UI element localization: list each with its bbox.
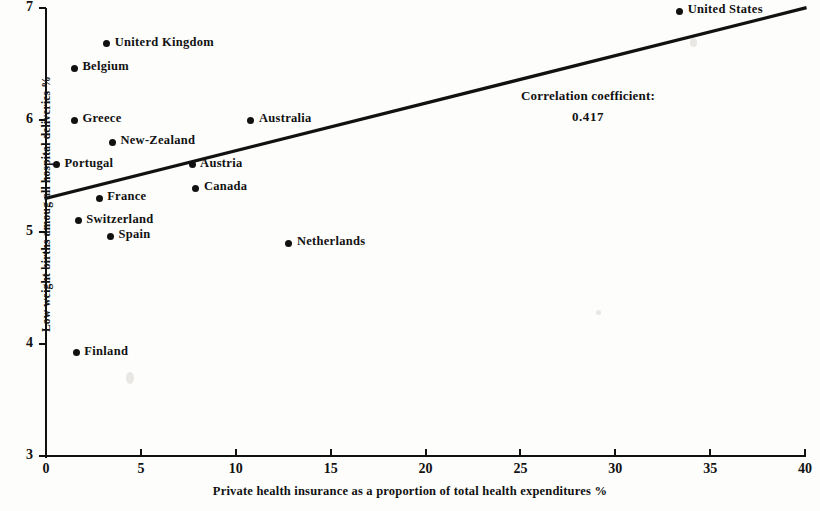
x-tick-label: 5 — [126, 461, 156, 477]
x-tick — [425, 449, 427, 456]
x-tick-label: 35 — [695, 461, 725, 477]
x-tick — [330, 449, 332, 456]
data-point-label: Australia — [259, 111, 312, 126]
data-point[interactable] — [192, 185, 199, 192]
data-point-label: Austria — [200, 156, 242, 171]
data-point-label: Uniterd Kingdom — [115, 35, 214, 50]
data-point[interactable] — [189, 161, 196, 168]
data-point-label: Greece — [82, 111, 121, 126]
scatter-chart-figure: 34567 0510152025303540 Low weight births… — [0, 0, 820, 511]
y-tick — [39, 7, 46, 9]
data-point-label: Belgium — [82, 59, 129, 74]
x-tick — [235, 449, 237, 456]
data-point[interactable] — [676, 8, 683, 15]
data-point[interactable] — [96, 195, 103, 202]
y-axis-title: Low weight births amoug all hospital del… — [40, 74, 52, 334]
data-point-label: Spain — [119, 227, 151, 242]
trend-line — [0, 0, 820, 511]
x-tick — [45, 449, 47, 456]
y-tick-label: 5 — [13, 223, 33, 239]
data-point[interactable] — [107, 233, 114, 240]
y-tick-label: 7 — [13, 0, 33, 15]
x-tick-label: 40 — [790, 461, 820, 477]
x-tick-label: 30 — [600, 461, 630, 477]
y-tick-label: 4 — [13, 335, 33, 351]
data-point[interactable] — [247, 117, 254, 124]
data-point-label: Finland — [84, 344, 128, 359]
data-point[interactable] — [71, 117, 78, 124]
data-point-label: Canada — [204, 179, 247, 194]
data-point[interactable] — [103, 40, 110, 47]
paper-speckle — [596, 310, 601, 315]
paper-speckle — [690, 38, 697, 47]
x-tick — [519, 449, 521, 456]
y-tick — [39, 343, 46, 345]
data-point-label: France — [107, 189, 146, 204]
data-point-label: Portugal — [64, 156, 113, 171]
data-point[interactable] — [53, 161, 60, 168]
data-point[interactable] — [71, 65, 78, 72]
paper-speckle — [126, 372, 134, 384]
correlation-annotation: Correlation coefficient: 0.417 — [468, 88, 708, 125]
x-tick-label: 20 — [411, 461, 441, 477]
x-axis-title: Private health insurance as a proportion… — [0, 484, 820, 499]
data-point-label: Netherlands — [297, 234, 366, 249]
x-tick-label: 15 — [316, 461, 346, 477]
x-tick — [140, 449, 142, 456]
y-tick-label: 6 — [13, 111, 33, 127]
data-point[interactable] — [109, 139, 116, 146]
correlation-label: Correlation coefficient: — [468, 88, 708, 104]
data-point-label: New-Zealand — [120, 133, 195, 148]
x-tick-label: 0 — [31, 461, 61, 477]
x-tick — [614, 449, 616, 456]
data-point[interactable] — [285, 240, 292, 247]
x-tick — [709, 449, 711, 456]
data-point-label: Switzerland — [86, 212, 153, 227]
data-point[interactable] — [75, 217, 82, 224]
x-tick-label: 10 — [221, 461, 251, 477]
y-tick-label: 3 — [13, 447, 33, 463]
data-point[interactable] — [73, 349, 80, 356]
data-point-label: United States — [688, 2, 763, 17]
x-tick — [804, 449, 806, 456]
x-tick-label: 25 — [505, 461, 535, 477]
correlation-value: 0.417 — [468, 109, 708, 125]
